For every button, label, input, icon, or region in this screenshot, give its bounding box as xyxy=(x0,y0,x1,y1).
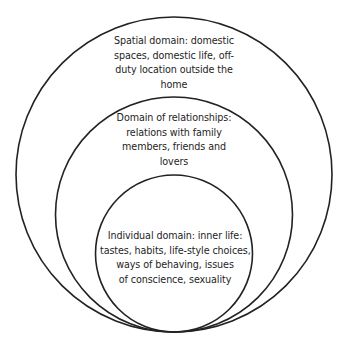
relationships-domain-label: Domain of relationships: relations with … xyxy=(104,111,244,169)
individual-domain-line-4: of conscience, sexuality xyxy=(100,273,250,288)
relationships-domain-line-1: Domain of relationships: xyxy=(104,111,244,126)
spatial-domain-line-2: spaces, domestic life, off- xyxy=(104,49,244,64)
individual-domain-label: Individual domain: inner life: tastes, h… xyxy=(100,229,250,287)
spatial-domain-line-1: Spatial domain: domestic xyxy=(104,34,244,49)
relationships-domain-line-2: relations with family xyxy=(104,126,244,141)
spatial-domain-label: Spatial domain: domestic spaces, domesti… xyxy=(104,34,244,92)
spatial-domain-line-3: duty location outside the xyxy=(104,63,244,78)
relationships-domain-line-4: lovers xyxy=(104,155,244,170)
individual-domain-line-2: tastes, habits, life-style choices, xyxy=(100,244,250,259)
individual-domain-line-1: Individual domain: inner life: xyxy=(100,229,250,244)
individual-domain-line-3: ways of behaving, issues xyxy=(100,258,250,273)
spatial-domain-line-4: home xyxy=(104,78,244,93)
relationships-domain-line-3: members, friends and xyxy=(104,140,244,155)
